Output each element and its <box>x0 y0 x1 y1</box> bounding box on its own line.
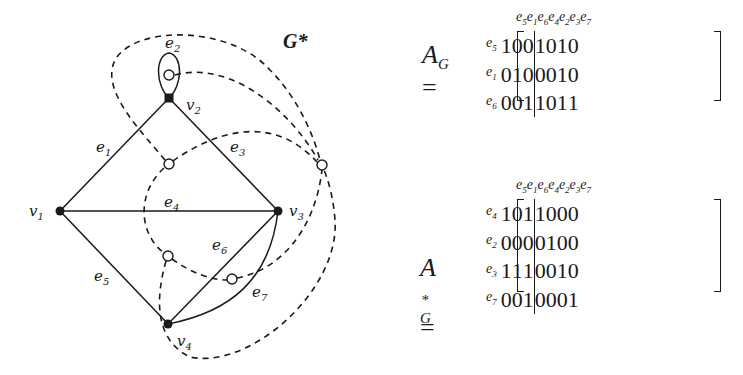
cell: 1 <box>557 31 568 60</box>
col-header: e1 <box>527 176 538 199</box>
cell: 0 <box>568 199 579 228</box>
row-header: e1 <box>486 60 501 89</box>
row-header: e2 <box>486 228 501 257</box>
graph-title: G* <box>283 30 308 52</box>
cell: 0 <box>546 31 557 60</box>
col-header: e6 <box>537 8 548 31</box>
cell: 0 <box>535 60 546 89</box>
col-header: e2 <box>559 8 570 31</box>
vertex-label-v2: v2 <box>186 96 201 116</box>
row-header: e3 <box>486 257 501 286</box>
cell: 0 <box>557 228 568 257</box>
matrix-row: e6 0 0 1 1 0 1 1 <box>486 89 579 118</box>
col-header: e4 <box>548 176 559 199</box>
matrix-row: e2 0 0 0 0 1 0 0 <box>486 228 579 257</box>
edge-label-e3: e3 <box>230 138 245 158</box>
edge-label-e7: e7 <box>252 283 268 303</box>
col-header: e3 <box>570 176 581 199</box>
col-header: e7 <box>580 8 591 31</box>
edge-label-e4: e4 <box>164 193 179 213</box>
col-header: e2 <box>559 176 570 199</box>
cell: 0 <box>568 31 579 60</box>
dual-vertex <box>317 160 327 170</box>
cell: 0 <box>501 228 512 257</box>
cell: 1 <box>501 199 512 228</box>
cell: 0 <box>535 228 546 257</box>
matrix-row: e1 0 1 0 0 0 1 0 <box>486 60 579 89</box>
cell: 0 <box>568 60 579 89</box>
vertex-label-v1: v1 <box>29 202 44 222</box>
matrix-AGstar-body: e4 1 0 1 1 0 0 0 e2 0 0 0 0 1 0 0 e3 <box>486 199 579 314</box>
cell: 0 <box>523 228 534 257</box>
dual-edge-outer-top <box>112 35 320 160</box>
matrix-AG-name: AG = <box>422 40 449 103</box>
cell: 0 <box>546 89 557 118</box>
matrix-row: e3 1 1 1 0 0 1 0 <box>486 257 579 286</box>
cell: 1 <box>557 60 568 89</box>
cell: 0 <box>546 199 557 228</box>
cell: 0 <box>535 257 546 286</box>
edge-label-e2: e2 <box>165 34 180 54</box>
cell: 1 <box>535 199 546 228</box>
cell: 1 <box>568 89 579 118</box>
dual-edge-bottom-e67 <box>172 259 227 280</box>
left-bracket <box>517 31 524 101</box>
edge-e3 <box>169 98 278 211</box>
dual-edge-bottom-outer <box>160 170 336 358</box>
vertex-v2 <box>165 94 174 103</box>
col-header: e3 <box>570 8 581 31</box>
row-header: e7 <box>486 285 501 314</box>
row-header: e4 <box>486 199 501 228</box>
cell: 0 <box>546 60 557 89</box>
dual-edges <box>112 35 335 359</box>
cell: 0 <box>546 285 557 314</box>
matrix-AGstar-name: A*G = <box>420 253 436 343</box>
right-bracket <box>714 31 721 101</box>
col-header: e4 <box>548 8 559 31</box>
edge-label-e1: e1 <box>96 138 111 158</box>
edge-e1 <box>60 98 169 211</box>
cell: 0 <box>557 285 568 314</box>
matrix-row: e4 1 0 1 1 0 0 0 <box>486 199 579 228</box>
cell: 0 <box>568 228 579 257</box>
cell: 0 <box>501 89 512 118</box>
matrix-AGstar-col-headers: e5 e1 e6 e4 e2 e3 e7 <box>516 176 591 199</box>
dual-vertex <box>163 251 173 261</box>
vertex-label-v4: v4 <box>177 332 192 352</box>
right-bracket <box>714 199 721 292</box>
cell: 0 <box>501 60 512 89</box>
cell: 0 <box>546 257 557 286</box>
matrix-AG-body: e5 1 0 0 1 0 1 0 e1 0 1 0 0 0 1 0 e6 <box>486 31 579 117</box>
cell: 1 <box>535 31 546 60</box>
matrix-AG-col-headers: e5 e1 e6 e4 e2 e3 e7 <box>516 8 591 31</box>
col-header: e1 <box>527 8 538 31</box>
col-header: e5 <box>516 176 527 199</box>
cell: 0 <box>568 257 579 286</box>
cell: 1 <box>523 257 534 286</box>
cell: 1 <box>523 89 534 118</box>
cell: 1 <box>501 31 512 60</box>
col-header: e5 <box>516 8 527 31</box>
edge-e5 <box>60 211 168 324</box>
matrix-row: e5 1 0 0 1 0 1 0 <box>486 31 579 60</box>
left-bracket <box>517 199 524 292</box>
vertex-v1 <box>56 207 65 216</box>
col-header: e7 <box>580 176 591 199</box>
edge-label-e6: e6 <box>212 236 228 256</box>
planar-graph-with-dual: G* v1 v2 v3 v4 e1 e2 e3 e4 e5 e6 e7 <box>0 0 380 375</box>
cell: 1 <box>568 285 579 314</box>
cell: 1 <box>523 199 534 228</box>
vertex-v4 <box>164 320 173 329</box>
vertex-label-v3: v3 <box>289 202 304 222</box>
cell: 0 <box>501 285 512 314</box>
cell: 0 <box>523 60 534 89</box>
cell: 1 <box>546 228 557 257</box>
matrix-row: e7 0 0 1 0 0 0 1 <box>486 285 579 314</box>
cell: 1 <box>501 257 512 286</box>
row-header: e5 <box>486 31 501 60</box>
vertex-v3 <box>274 207 283 216</box>
cell: 1 <box>523 285 534 314</box>
dual-vertex <box>164 70 174 80</box>
cell: 1 <box>557 89 568 118</box>
cell: 0 <box>557 199 568 228</box>
